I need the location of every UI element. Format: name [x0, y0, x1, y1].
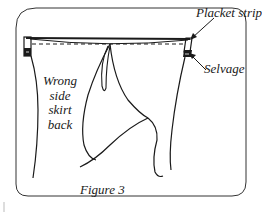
center-fold-right: [110, 44, 148, 118]
left-skirt-edge: [31, 56, 38, 178]
fabric-side-label-line: back: [40, 118, 80, 133]
placket-strip-top-edge: [26, 38, 190, 39]
placket-strip-pointer: [190, 18, 214, 40]
right-skirt-edge: [170, 57, 185, 170]
hem-diagonal: [80, 118, 148, 167]
fabric-side-label-line: skirt: [40, 103, 80, 118]
center-fold-left: [83, 44, 110, 160]
right-drape-tail: [148, 118, 163, 177]
figure-caption: Figure 3: [80, 183, 125, 196]
fabric-side-label: Wrong side skirt back: [40, 74, 80, 132]
left-selvage-marker: [24, 37, 31, 56]
placket-strip-label: Placket strip: [196, 6, 262, 19]
fabric-side-label-line: Wrong: [40, 74, 80, 89]
fabric-side-label-line: side: [40, 89, 80, 104]
selvage-label: Selvage: [204, 62, 244, 75]
